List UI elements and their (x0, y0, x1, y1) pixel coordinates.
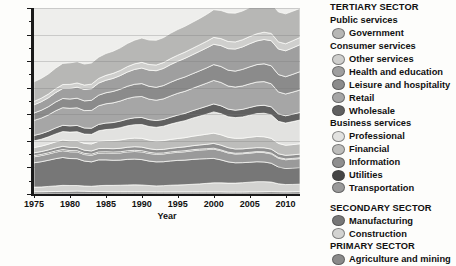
legend-item[interactable]: Information (330, 156, 456, 169)
legend-label: Business services (330, 118, 411, 128)
x-axis-tick (214, 194, 215, 198)
legend-swatch-icon (332, 92, 345, 103)
legend-item[interactable]: Professional (330, 130, 456, 143)
legend-label: Utilities (349, 170, 383, 180)
legend-sector-heading: TERTIARY SECTOR (330, 1, 456, 14)
gridline (34, 88, 300, 89)
x-axis-label: 2005 (230, 199, 270, 209)
legend-item[interactable]: Health and education (330, 65, 456, 78)
legend-label: Manufacturing (349, 216, 413, 226)
gridline (34, 141, 300, 142)
legend-sector-heading: PRIMARY SECTOR (330, 240, 456, 253)
legend-item[interactable]: Transportation (330, 181, 456, 194)
gridline (34, 35, 300, 36)
legend-swatch-icon (332, 131, 345, 142)
legend-label: Public services (330, 15, 398, 25)
legend-label: Health and education (349, 67, 443, 77)
chart-block: 0204060801001201401975198019851990199520… (0, 0, 310, 229)
legend-swatch-icon (332, 54, 345, 65)
legend-swatch-icon (332, 28, 345, 39)
y-axis-minor-tick (29, 154, 32, 155)
legend-swatch-icon (332, 182, 345, 193)
legend-label: Transportation (349, 183, 414, 193)
x-axis-label: 1995 (158, 199, 198, 209)
x-axis-line (31, 194, 300, 196)
legend-swatch-icon (332, 157, 345, 168)
x-axis-tick (286, 194, 287, 198)
x-axis-tick (142, 194, 143, 198)
legend-swatch-icon (332, 105, 345, 116)
legend-group-heading: Public services (330, 14, 456, 27)
y-axis-tick (27, 35, 32, 36)
legend-swatch-icon (332, 79, 345, 90)
y-axis-tick (27, 141, 32, 142)
legend-item[interactable]: Leisure and hospitality (330, 78, 456, 91)
legend-item[interactable]: Manufacturing (330, 214, 456, 227)
legend-swatch-icon (332, 254, 345, 265)
y-axis-minor-tick (29, 74, 32, 75)
y-axis-tick (27, 88, 32, 89)
legend-group-heading: Consumer services (330, 40, 456, 53)
y-axis-minor-tick (29, 48, 32, 49)
legend-item[interactable]: Construction (330, 227, 456, 240)
legend-label: Leisure and hospitality (349, 80, 450, 90)
x-axis-tick (106, 194, 107, 198)
legend-label: TERTIARY SECTOR (330, 2, 419, 12)
legend-label: Information (349, 157, 400, 167)
x-axis-tick (70, 194, 71, 198)
legend-label: Government (349, 28, 404, 38)
legend-label: Construction (349, 229, 407, 239)
legend-item[interactable]: Government (330, 27, 456, 40)
x-axis-label: 1975 (14, 199, 54, 209)
legend-label: Retail (349, 93, 374, 103)
legend-label: Professional (349, 131, 405, 141)
stacked-area-series (34, 8, 300, 194)
legend-label: Wholesale (349, 106, 395, 116)
legend-swatch-icon (332, 228, 345, 239)
legend-sector-heading: SECONDARY SECTOR (330, 201, 456, 214)
legend-group-heading: Business services (330, 117, 456, 130)
legend-item[interactable]: Other services (330, 53, 456, 66)
legend-swatch-icon (332, 170, 345, 181)
y-axis-tick (27, 194, 32, 195)
y-axis-tick (27, 167, 32, 168)
gridline (34, 114, 300, 115)
legend-label: SECONDARY SECTOR (330, 203, 432, 213)
y-axis-tick (27, 61, 32, 62)
x-axis-label: 1980 (50, 199, 90, 209)
x-axis-label: 2010 (266, 199, 306, 209)
y-axis-tick (27, 8, 32, 9)
legend-label: Consumer services (330, 41, 416, 51)
legend-label: PRIMARY SECTOR (330, 241, 415, 251)
x-axis-label: 2000 (194, 199, 234, 209)
x-axis-label: 1985 (86, 199, 126, 209)
legend-swatch-icon (332, 144, 345, 155)
y-axis-tick (27, 114, 32, 115)
gridline (34, 61, 300, 62)
legend-item[interactable]: Financial (330, 143, 456, 156)
legend-spacer (330, 194, 456, 201)
legend-label: Other services (349, 54, 414, 64)
y-axis-minor-tick (29, 181, 32, 182)
legend-item[interactable]: Utilities (330, 169, 456, 182)
legend-label: Agriculture and mining (349, 254, 451, 264)
y-axis-minor-tick (29, 101, 32, 102)
x-axis-title: Year (34, 211, 300, 221)
gridline (34, 167, 300, 168)
legend-label: Financial (349, 144, 389, 154)
x-axis-tick (34, 194, 35, 198)
plot-area (34, 8, 300, 194)
x-axis-tick (250, 194, 251, 198)
y-axis-minor-tick (29, 128, 32, 129)
gridline (34, 8, 300, 9)
legend-item[interactable]: Wholesale (330, 104, 456, 117)
legend-swatch-icon (332, 215, 345, 226)
legend: TERTIARY SECTORPublic servicesGovernment… (330, 1, 456, 228)
legend-item[interactable]: Agriculture and mining (330, 253, 456, 266)
legend-swatch-icon (332, 66, 345, 77)
y-axis-minor-tick (29, 21, 32, 22)
legend-item[interactable]: Retail (330, 91, 456, 104)
x-axis-label: 1990 (122, 199, 162, 209)
x-axis-tick (178, 194, 179, 198)
